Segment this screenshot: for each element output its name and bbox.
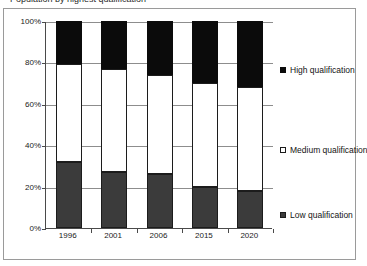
bar-segment-high[interactable] — [56, 21, 82, 64]
y-axis-tick — [42, 63, 46, 64]
y-axis-tick-labels: 100%80%60%40%20%0% — [4, 22, 41, 229]
legend-label: High qualification — [290, 66, 355, 75]
bar-segment-high[interactable] — [192, 21, 218, 83]
x-axis-tick-label: 1996 — [48, 232, 88, 240]
x-axis-tick-label: 2015 — [184, 232, 224, 240]
x-axis-tick-labels: 19962001200620152020 — [45, 232, 272, 246]
y-axis-tick — [42, 146, 46, 147]
bar-segment-high[interactable] — [147, 21, 173, 75]
bar-segment-medium[interactable] — [147, 75, 173, 174]
legend-label: Low qualification — [290, 211, 353, 220]
bar-segment-high[interactable] — [101, 21, 127, 69]
bar-segment-high[interactable] — [237, 21, 263, 87]
bar-segment-medium[interactable] — [237, 87, 263, 191]
y-axis-tick-label: 100% — [21, 18, 41, 26]
x-axis-tick-label: 2001 — [93, 232, 133, 240]
y-axis-tick — [42, 229, 46, 230]
bar-segment-medium[interactable] — [192, 83, 218, 187]
y-axis-tick-label: 0% — [29, 225, 41, 233]
y-axis-tick — [42, 105, 46, 106]
gray-square-icon — [280, 212, 286, 218]
legend-entry[interactable]: Medium qualification — [280, 146, 367, 155]
bar-segment-low[interactable] — [56, 162, 82, 228]
legend-entry[interactable]: High qualification — [280, 66, 355, 75]
bar-segment-medium[interactable] — [56, 64, 82, 161]
x-axis-tick — [273, 229, 274, 233]
cropped-title-strip: Population by highest qualification — [0, 0, 361, 8]
legend-label: Medium qualification — [290, 146, 367, 155]
bar-segment-low[interactable] — [147, 174, 173, 228]
x-axis-tick-label: 2020 — [229, 232, 269, 240]
y-axis-tick — [42, 188, 46, 189]
black-square-icon — [280, 67, 286, 73]
y-axis-tick-label: 60% — [25, 101, 41, 109]
y-axis-tick — [42, 22, 46, 23]
plot-area — [45, 22, 272, 229]
bar-segment-low[interactable] — [192, 187, 218, 228]
y-axis-tick-label: 40% — [25, 142, 41, 150]
y-axis-tick-label: 80% — [25, 59, 41, 67]
bar-segment-low[interactable] — [237, 191, 263, 228]
bar-segment-low[interactable] — [101, 172, 127, 228]
white-square-icon — [280, 147, 286, 153]
legend-entry[interactable]: Low qualification — [280, 211, 353, 220]
chart-frame: 100%80%60%40%20%0% 19962001200620152020 … — [3, 8, 356, 260]
bar-segment-medium[interactable] — [101, 69, 127, 173]
y-axis-tick-label: 20% — [25, 184, 41, 192]
chart-title-fragment: Population by highest qualification — [10, 0, 146, 4]
x-axis-tick-label: 2006 — [139, 232, 179, 240]
